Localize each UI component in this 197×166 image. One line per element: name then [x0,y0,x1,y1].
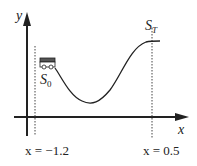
y-axis-arrow-icon [23,12,31,26]
mountain-car-diagram: y x S0 ST x = −1.2 x = 0.5 [0,0,197,166]
right-boundary-label: x = 0.5 [143,143,180,158]
x-axis-arrow-icon [175,113,189,121]
x-axis-label: x [177,122,185,137]
terminal-state-label: ST [145,18,158,35]
left-boundary-label: x = −1.2 [25,143,69,158]
car-icon [40,58,55,69]
hill-curve [55,41,160,103]
y-axis-label: y [14,8,23,23]
start-state-label: S0 [40,72,52,89]
